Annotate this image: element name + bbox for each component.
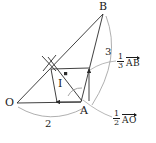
arc-label-3: 3: [105, 47, 111, 57]
annotation-one-half-ao: 1 2 AO: [113, 110, 137, 128]
segment-left-side: [51, 69, 57, 102]
fraction-numerator: 1: [117, 53, 124, 61]
arc-label-2: 2: [45, 119, 51, 129]
fraction-numerator: 1: [113, 110, 120, 118]
tick-mark-cross: [42, 55, 56, 71]
vector-arrow-icon: [126, 55, 140, 59]
point-label-o: O: [5, 97, 14, 108]
vector-name-ab: AB: [126, 59, 140, 68]
point-label-b: B: [99, 1, 107, 12]
point-marker-i: [64, 72, 67, 75]
measure-arc-oa: [18, 107, 84, 117]
vector-notation-ab: AB: [126, 55, 140, 68]
point-label-a: A: [80, 105, 88, 116]
annotation-one-third-ab: 1 3 AB: [117, 53, 140, 71]
fraction-one-third: 1 3: [117, 53, 124, 71]
fraction-one-half: 1 2: [113, 110, 120, 128]
segment-a-b: [81, 14, 103, 102]
point-label-i: I: [58, 78, 62, 89]
fraction-denominator: 3: [117, 61, 124, 70]
leader-line-third-ab: [90, 61, 116, 70]
fraction-denominator: 2: [113, 118, 120, 127]
measure-arc-ab: [92, 16, 112, 105]
vector-name-ao: AO: [122, 116, 136, 125]
vector-notation-ao: AO: [122, 112, 136, 125]
vector-arrow-icon: [122, 112, 136, 116]
